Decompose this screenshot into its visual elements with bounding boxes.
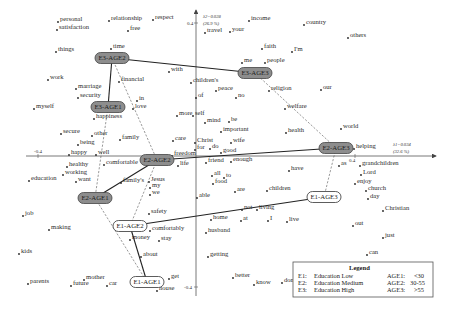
point-marker — [211, 175, 213, 177]
word-point: myself — [33, 102, 55, 110]
word-point: happiness — [93, 112, 122, 120]
word-label: money — [132, 233, 151, 240]
word-label: care — [175, 134, 186, 141]
word-point: faith — [261, 42, 277, 50]
word-label: things — [58, 45, 75, 52]
word-point: our — [320, 83, 332, 91]
word-label: income — [251, 14, 270, 21]
point-marker — [77, 97, 79, 99]
word-label: about — [143, 250, 158, 257]
word-point: religion — [268, 84, 292, 92]
point-marker — [359, 165, 361, 167]
word-label: Lord — [363, 168, 377, 175]
point-marker — [148, 213, 150, 215]
word-label: future — [73, 279, 89, 286]
point-marker — [204, 122, 206, 124]
word-label: no — [238, 91, 245, 98]
word-point: peace — [215, 84, 233, 92]
point-marker — [110, 48, 112, 50]
word-point: have — [288, 164, 303, 172]
point-marker — [60, 133, 62, 135]
word-point: marriage — [75, 82, 101, 90]
word-label: well — [98, 148, 110, 155]
word-label: helping — [356, 142, 376, 149]
point-marker — [108, 20, 110, 22]
word-label: making — [51, 223, 71, 230]
word-label: time — [113, 42, 125, 49]
word-label: be — [231, 115, 237, 122]
legend-age-code-3: AGE3: — [387, 286, 405, 293]
point-marker — [207, 256, 209, 258]
point-marker — [285, 132, 287, 134]
node-label: E3-AGE1 — [94, 103, 121, 110]
node-label: E2-AGE3 — [322, 144, 350, 151]
word-label: know — [256, 278, 271, 285]
dashed-link — [95, 198, 147, 282]
word-label: good — [223, 146, 237, 153]
node-label: E2-AGE2 — [143, 156, 171, 163]
word-label: friend — [208, 156, 224, 163]
word-point: me — [241, 56, 252, 64]
word-label: faith — [264, 42, 277, 49]
word-label: love — [135, 102, 146, 109]
word-label: self — [195, 109, 205, 116]
word-point: family — [119, 133, 140, 141]
point-marker — [230, 161, 232, 163]
point-marker — [192, 115, 194, 117]
word-label: children — [269, 184, 291, 191]
word-point: job — [22, 209, 34, 217]
word-label: do — [212, 142, 219, 149]
word-label: car — [109, 279, 118, 286]
word-point: enough — [230, 155, 253, 163]
word-label: me — [244, 56, 252, 63]
word-point: your — [229, 25, 245, 33]
legend-title: Legend — [349, 264, 370, 271]
word-label: get — [171, 272, 179, 279]
point-marker — [241, 209, 243, 211]
point-marker — [261, 48, 263, 50]
word-label: work — [50, 73, 64, 80]
word-label: for — [197, 143, 205, 150]
word-label: with — [171, 65, 183, 72]
word-point: live — [286, 215, 299, 223]
word-label: happy — [71, 148, 88, 155]
group-node: E3-AGE3 — [238, 68, 272, 79]
word-point: we — [149, 188, 160, 196]
word-point: income — [248, 14, 270, 22]
legend-age-code-2: AGE2: — [387, 279, 405, 286]
word-point: education — [28, 174, 57, 182]
legend-label-3: Education High — [314, 286, 355, 293]
word-label: want — [78, 175, 91, 182]
point-marker — [235, 97, 237, 99]
legend-age-range-2: 30-55 — [410, 279, 425, 286]
point-marker — [253, 284, 255, 286]
word-point: personal — [57, 15, 82, 23]
word-label: getting — [210, 250, 229, 257]
word-label: secure — [63, 127, 80, 134]
word-point: living — [256, 203, 275, 211]
word-label: important — [223, 125, 249, 132]
point-marker — [264, 62, 266, 64]
legend-age-range-3: >55 — [414, 286, 424, 293]
point-marker — [205, 232, 207, 234]
point-marker — [210, 219, 212, 221]
point-marker — [62, 174, 64, 176]
point-marker — [106, 285, 108, 287]
word-point: getting — [207, 250, 229, 258]
point-marker — [281, 282, 283, 284]
word-point: about — [140, 250, 158, 258]
word-point: parents — [27, 277, 49, 285]
point-marker — [18, 253, 20, 255]
word-label: happiness — [96, 112, 122, 119]
word-point: free — [127, 24, 140, 32]
word-point: mind — [204, 116, 221, 124]
word-point: love — [132, 102, 146, 110]
word-point: security — [77, 91, 101, 99]
word-point: life — [177, 159, 189, 167]
word-label: free — [130, 24, 140, 31]
word-label: our — [323, 83, 333, 90]
word-point: world — [340, 122, 359, 130]
word-label: your — [232, 25, 245, 32]
word-label: people — [267, 56, 285, 63]
point-marker — [338, 165, 340, 167]
